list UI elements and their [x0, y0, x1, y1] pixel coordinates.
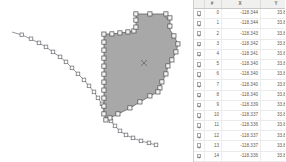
vertex-y-value[interactable]: 33.887 — [261, 110, 286, 120]
checkbox-icon[interactable] — [197, 143, 202, 148]
row-select-checkbox[interactable] — [194, 39, 205, 49]
vertex-index[interactable]: 4 — [205, 49, 222, 59]
row-select-checkbox[interactable] — [194, 90, 205, 100]
vertex-index[interactable]: 2 — [205, 29, 222, 39]
column-header-y[interactable]: Y — [261, 0, 286, 9]
vertex-index[interactable]: 11 — [205, 121, 222, 131]
vertex-index[interactable]: 14 — [205, 151, 222, 161]
row-select-checkbox[interactable] — [194, 19, 205, 29]
row-select-checkbox[interactable] — [194, 100, 205, 110]
vertex-x-value[interactable]: -118.343 — [222, 29, 261, 39]
vertex-index[interactable]: 1 — [205, 19, 222, 29]
vertex-x-value[interactable]: -118.339 — [222, 100, 261, 110]
vertex-index[interactable]: 7 — [205, 80, 222, 90]
table-row[interactable]: 15-118.33633.885 — [194, 161, 285, 162]
vertex-index[interactable]: 15 — [205, 161, 222, 162]
table-row[interactable]: 10-118.33733.887 — [194, 110, 285, 120]
vertex-index[interactable]: 6 — [205, 70, 222, 80]
vertex-y-value[interactable]: 33.886 — [261, 151, 286, 161]
vertex-x-value[interactable]: -118.341 — [222, 49, 261, 59]
vertex-y-value[interactable]: 33.887 — [261, 131, 286, 141]
vertex-y-value[interactable]: 33.885 — [261, 9, 286, 19]
vertex-x-value[interactable]: -118.340 — [222, 70, 261, 80]
table-row[interactable]: 4-118.34133.886 — [194, 49, 285, 59]
row-select-checkbox[interactable] — [194, 80, 205, 90]
vertex-y-value[interactable]: 33.886 — [261, 70, 286, 80]
vertex-x-value[interactable]: -118.336 — [222, 121, 261, 131]
vertex-x-value[interactable]: -118.342 — [222, 39, 261, 49]
table-row[interactable]: 12-118.33733.887 — [194, 131, 285, 141]
column-header-x[interactable]: X — [222, 0, 261, 9]
checkbox-icon[interactable] — [197, 21, 202, 26]
vertex-y-value[interactable]: 33.886 — [261, 29, 286, 39]
column-header-index[interactable]: # — [205, 0, 222, 9]
vertex-y-value[interactable]: 33.886 — [261, 19, 286, 29]
vertex-index[interactable]: 10 — [205, 110, 222, 120]
vertex-index[interactable]: 5 — [205, 59, 222, 69]
table-row[interactable]: 2-118.34333.886 — [194, 29, 285, 39]
vertex-x-value[interactable]: -118.344 — [222, 9, 261, 19]
checkbox-icon[interactable] — [197, 93, 202, 98]
table-row[interactable]: 3-118.34233.886 — [194, 39, 285, 49]
row-select-checkbox[interactable] — [194, 161, 205, 162]
table-row[interactable]: 7-118.34033.887 — [194, 80, 285, 90]
row-select-checkbox[interactable] — [194, 141, 205, 151]
table-row[interactable]: 9-118.33933.887 — [194, 100, 285, 110]
vertex-x-value[interactable]: -118.344 — [222, 19, 261, 29]
checkbox-icon[interactable] — [197, 31, 202, 36]
vertex-x-value[interactable]: -118.336 — [222, 161, 261, 162]
row-select-checkbox[interactable] — [194, 121, 205, 131]
vertex-index[interactable]: 8 — [205, 90, 222, 100]
vertex-attribute-table[interactable]: # X Y 0-118.34433.8851-118.34433.8862-11… — [194, 0, 285, 162]
row-select-checkbox[interactable] — [194, 110, 205, 120]
vertex-x-value[interactable]: -118.337 — [222, 110, 261, 120]
vertex-x-value[interactable]: -118.336 — [222, 151, 261, 161]
row-select-checkbox[interactable] — [194, 9, 205, 19]
table-row[interactable]: 6-118.34033.886 — [194, 70, 285, 80]
vertex-y-value[interactable]: 33.887 — [261, 80, 286, 90]
vertex-x-value[interactable]: -118.340 — [222, 90, 261, 100]
checkbox-icon[interactable] — [197, 82, 202, 87]
vertex-x-value[interactable]: -118.337 — [222, 131, 261, 141]
vertex-y-value[interactable]: 33.886 — [261, 49, 286, 59]
vertex-y-value[interactable]: 33.887 — [261, 90, 286, 100]
vertex-y-value[interactable]: 33.886 — [261, 39, 286, 49]
vertex-x-value[interactable]: -118.340 — [222, 80, 261, 90]
table-row[interactable]: 11-118.33633.887 — [194, 121, 285, 131]
table-row[interactable]: 1-118.34433.886 — [194, 19, 285, 29]
checkbox-icon[interactable] — [197, 133, 202, 138]
row-select-checkbox[interactable] — [194, 70, 205, 80]
map-canvas[interactable] — [0, 0, 193, 162]
selected-polygon[interactable] — [102, 12, 180, 122]
checkbox-icon[interactable] — [197, 52, 202, 57]
vertex-x-value[interactable]: -118.340 — [222, 59, 261, 69]
row-select-checkbox[interactable] — [194, 49, 205, 59]
checkbox-icon[interactable] — [197, 62, 202, 67]
vertex-index[interactable]: 3 — [205, 39, 222, 49]
checkbox-icon[interactable] — [197, 113, 202, 118]
table-row[interactable]: 14-118.33633.886 — [194, 151, 285, 161]
vertex-x-value[interactable]: -118.337 — [222, 141, 261, 151]
vertex-y-value[interactable]: 33.885 — [261, 161, 286, 162]
checkbox-icon[interactable] — [197, 42, 202, 47]
column-header-select[interactable] — [194, 0, 205, 9]
table-row[interactable]: 13-118.33733.886 — [194, 141, 285, 151]
table-row[interactable]: 8-118.34033.887 — [194, 90, 285, 100]
table-row[interactable]: 5-118.34033.886 — [194, 59, 285, 69]
checkbox-icon[interactable] — [197, 103, 202, 108]
vertex-index[interactable]: 9 — [205, 100, 222, 110]
vertex-attribute-panel[interactable]: # X Y 0-118.34433.8851-118.34433.8862-11… — [193, 0, 285, 162]
vertex-index[interactable]: 12 — [205, 131, 222, 141]
vertex-index[interactable]: 13 — [205, 141, 222, 151]
checkbox-icon[interactable] — [197, 154, 202, 159]
row-select-checkbox[interactable] — [194, 151, 205, 161]
row-select-checkbox[interactable] — [194, 29, 205, 39]
checkbox-icon[interactable] — [197, 11, 202, 16]
vertex-y-value[interactable]: 33.887 — [261, 100, 286, 110]
vertex-y-value[interactable]: 33.886 — [261, 59, 286, 69]
table-row[interactable]: 0-118.34433.885 — [194, 9, 285, 19]
row-select-checkbox[interactable] — [194, 59, 205, 69]
checkbox-icon[interactable] — [197, 123, 202, 128]
vertex-index[interactable]: 0 — [205, 9, 222, 19]
vertex-y-value[interactable]: 33.886 — [261, 141, 286, 151]
